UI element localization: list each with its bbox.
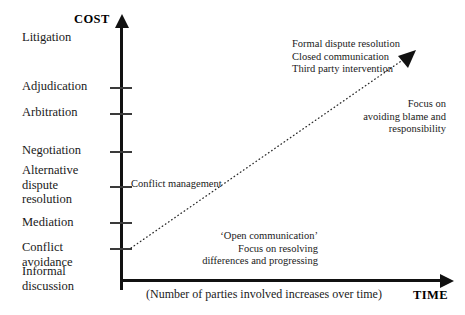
stage-label-litigation: Litigation: [22, 30, 114, 45]
annotation-open-communication: ‘Open communication’Focus on resolvingdi…: [178, 230, 318, 268]
annotation-avoiding-blame: Focus onavoiding blame andresponsibility: [330, 98, 446, 136]
x-axis-arrowhead-icon: [440, 274, 454, 288]
stage-label-adjudication: Adjudication: [22, 79, 114, 94]
stage-label-negotiation: Negotiation: [22, 143, 114, 158]
y-axis-arrowhead-icon: [115, 14, 129, 28]
annotation-conflict-management: Conflict management: [131, 178, 222, 191]
conflict-escalation-diagram: COST TIME (Number of parties involved in…: [0, 0, 465, 315]
annotation-formal-dispute-resolution: Formal dispute resolutionClosed communic…: [292, 38, 400, 76]
y-axis-title: COST: [74, 12, 110, 27]
stage-label-arbitration: Arbitration: [22, 105, 114, 120]
x-axis-title: TIME: [413, 288, 448, 303]
trend-dotted-line: [131, 57, 407, 248]
x-axis-note: (Number of parties involved increases ov…: [146, 287, 382, 302]
x-axis-line: [120, 279, 445, 282]
stage-label-mediation: Mediation: [22, 215, 114, 230]
trend-arrowhead-icon: [398, 50, 416, 68]
stage-label-informal-discussion: Informaldiscussion: [22, 264, 114, 293]
stage-label-alternative-dispute-resolution: Alternativedisputeresolution: [22, 163, 114, 207]
y-axis-line: [120, 22, 123, 290]
